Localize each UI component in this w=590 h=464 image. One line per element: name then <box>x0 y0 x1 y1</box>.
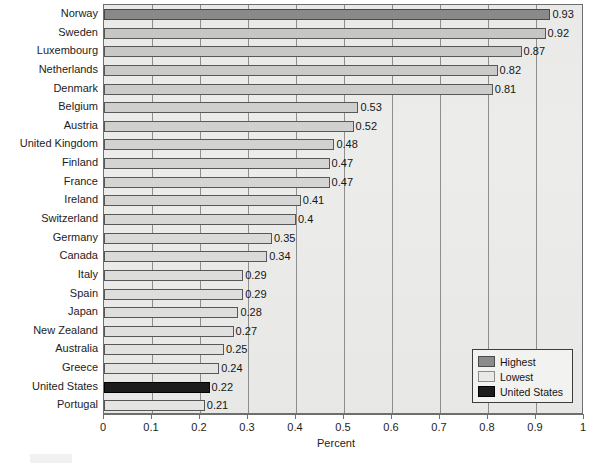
legend-item: United States <box>478 384 567 399</box>
bar-value-label: 0.4 <box>298 211 313 228</box>
category-label: United Kingdom <box>0 137 98 150</box>
bar-row <box>104 5 583 25</box>
x-tick <box>247 414 248 419</box>
bar-japan <box>104 307 238 318</box>
bar-france <box>104 177 330 188</box>
category-label: Portugal <box>0 398 98 411</box>
category-label: Australia <box>0 342 98 355</box>
bar-norway <box>104 9 550 20</box>
bar-portugal <box>104 400 205 411</box>
bar-value-label: 0.53 <box>360 99 381 116</box>
legend-item: Highest <box>478 354 567 369</box>
bar-value-label: 0.82 <box>500 62 521 79</box>
category-label: United States <box>0 380 98 393</box>
category-label: Finland <box>0 156 98 169</box>
x-tick-label: 0.2 <box>191 420 206 434</box>
bar-row <box>104 285 583 305</box>
bar-new-zealand <box>104 326 234 337</box>
caption-remnant <box>30 452 180 463</box>
x-tick <box>439 414 440 419</box>
category-label: Switzerland <box>0 212 98 225</box>
bar-denmark <box>104 84 493 95</box>
bar-value-label: 0.24 <box>221 360 242 377</box>
legend-swatch-us <box>478 386 495 397</box>
figure-container: NorwaySwedenLuxembourgNetherlandsDenmark… <box>0 0 590 464</box>
bar-row <box>104 117 583 137</box>
x-tick <box>295 414 296 419</box>
bar-value-label: 0.48 <box>336 136 357 153</box>
category-axis-labels: NorwaySwedenLuxembourgNetherlandsDenmark… <box>0 4 98 414</box>
bar-united-kingdom <box>104 139 334 150</box>
category-label: Netherlands <box>0 63 98 76</box>
bar-value-label: 0.29 <box>245 286 266 303</box>
bar-value-label: 0.47 <box>332 174 353 191</box>
x-tick-label: 0.7 <box>431 420 446 434</box>
bar-value-label: 0.27 <box>236 323 257 340</box>
category-label: Denmark <box>0 82 98 95</box>
x-axis-title-text: Percent <box>317 437 355 449</box>
bar-value-label: 0.28 <box>240 304 261 321</box>
bar-value-label: 0.35 <box>274 230 295 247</box>
x-tick <box>103 414 104 419</box>
x-tick-label: 0 <box>100 420 106 434</box>
bar-value-label: 0.81 <box>495 81 516 98</box>
category-label: New Zealand <box>0 324 98 337</box>
category-label: Luxembourg <box>0 44 98 57</box>
x-tick-label: 1 <box>580 420 586 434</box>
x-tick-label: 0.4 <box>287 420 302 434</box>
bar-row <box>104 24 583 44</box>
bar-value-label: 0.93 <box>552 6 573 23</box>
x-tick-label: 0.3 <box>239 420 254 434</box>
caption-swatch <box>30 454 72 463</box>
x-tick <box>343 414 344 419</box>
bar-value-label: 0.52 <box>356 118 377 135</box>
category-label: Spain <box>0 287 98 300</box>
bar-value-label: 0.21 <box>207 397 228 414</box>
legend-swatch-highest <box>478 356 495 367</box>
bar-canada <box>104 251 267 262</box>
x-tick <box>391 414 392 419</box>
bar-greece <box>104 363 219 374</box>
bar-sweden <box>104 28 546 39</box>
bar-row <box>104 210 583 230</box>
category-label: Sweden <box>0 26 98 39</box>
bar-spain <box>104 289 243 300</box>
bar-row <box>104 266 583 286</box>
legend-swatch-lowest <box>478 371 495 382</box>
bar-value-label: 0.34 <box>269 248 290 265</box>
category-label: France <box>0 175 98 188</box>
x-tick-label: 0.5 <box>335 420 350 434</box>
bar-row <box>104 191 583 211</box>
x-tick <box>151 414 152 419</box>
category-label: Canada <box>0 249 98 262</box>
bar-value-label: 0.22 <box>212 379 233 396</box>
legend: HighestLowestUnited States <box>472 349 573 403</box>
bar-row <box>104 229 583 249</box>
x-tick <box>487 414 488 419</box>
bar-row <box>104 303 583 323</box>
legend-label: Lowest <box>500 371 533 383</box>
bar-finland <box>104 158 330 169</box>
bar-united-states <box>104 382 210 393</box>
x-tick-label: 0.1 <box>143 420 158 434</box>
category-label: Norway <box>0 7 98 20</box>
bar-ireland <box>104 195 301 206</box>
category-label: Italy <box>0 268 98 281</box>
category-label: Japan <box>0 305 98 318</box>
bar-australia <box>104 344 224 355</box>
category-label: Belgium <box>0 100 98 113</box>
bar-row <box>104 247 583 267</box>
bar-value-label: 0.87 <box>524 43 545 60</box>
bar-value-label: 0.25 <box>226 341 247 358</box>
legend-item: Lowest <box>478 369 567 384</box>
category-label: Austria <box>0 119 98 132</box>
bar-value-label: 0.29 <box>245 267 266 284</box>
bar-belgium <box>104 102 358 113</box>
bar-row <box>104 98 583 118</box>
x-tick <box>583 414 584 419</box>
x-tick-label: 0.9 <box>527 420 542 434</box>
x-axis-title: Percent <box>0 437 590 449</box>
x-tick <box>199 414 200 419</box>
bar-netherlands <box>104 65 498 76</box>
bar-value-label: 0.41 <box>303 192 324 209</box>
